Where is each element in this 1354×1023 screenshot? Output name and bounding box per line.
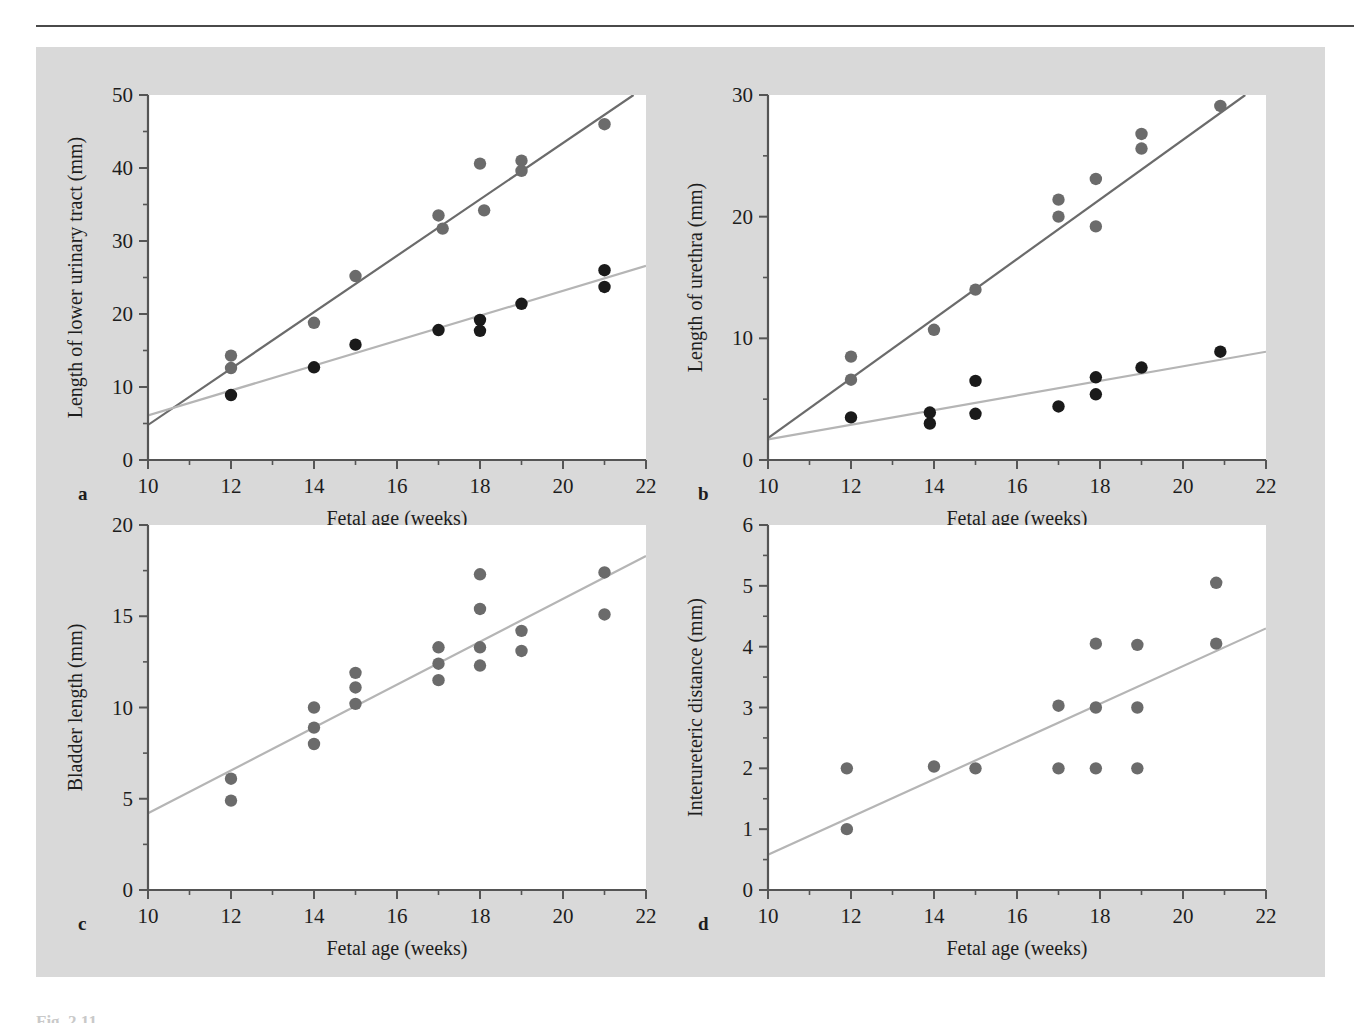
data-point-b-1-1 xyxy=(924,406,936,418)
y-axis-label-d: Interureteric distance (mm) xyxy=(684,598,707,817)
x-tick-label-c-2: 14 xyxy=(304,904,326,928)
data-point-d-0-3 xyxy=(969,762,981,774)
data-point-c-0-17 xyxy=(598,566,610,578)
data-point-d-0-12 xyxy=(1210,577,1222,589)
panel-c: 1012141618202205101520Fetal age (weeks)B… xyxy=(64,513,657,960)
x-tick-label-c-4: 18 xyxy=(470,904,491,928)
x-tick-label-a-2: 14 xyxy=(304,474,326,498)
y-tick-label-a-4: 40 xyxy=(112,156,133,180)
x-tick-label-d-2: 14 xyxy=(924,904,946,928)
x-tick-label-a-5: 20 xyxy=(553,474,574,498)
y-tick-label-b-2: 20 xyxy=(732,205,753,229)
x-tick-label-c-0: 10 xyxy=(138,904,159,928)
y-tick-label-c-4: 20 xyxy=(112,513,133,537)
x-tick-label-b-5: 20 xyxy=(1173,474,1194,498)
y-tick-label-c-3: 15 xyxy=(112,604,133,628)
data-point-b-1-8 xyxy=(1135,361,1147,373)
data-point-d-0-9 xyxy=(1131,639,1143,651)
y-tick-label-c-0: 0 xyxy=(123,878,134,902)
y-tick-label-b-1: 10 xyxy=(732,326,753,350)
x-tick-label-d-0: 10 xyxy=(758,904,779,928)
data-point-b-1-0 xyxy=(845,411,857,423)
x-tick-label-d-3: 16 xyxy=(1007,904,1028,928)
data-point-d-0-0 xyxy=(841,762,853,774)
data-point-b-0-7 xyxy=(1090,220,1102,232)
data-point-b-1-5 xyxy=(1052,400,1064,412)
data-point-a-0-9 xyxy=(515,165,527,177)
plot-area-c xyxy=(148,525,646,890)
data-point-b-0-5 xyxy=(1052,210,1064,222)
x-axis-label-d: Fetal age (weeks) xyxy=(946,937,1087,960)
data-point-d-0-13 xyxy=(1210,637,1222,649)
x-tick-label-c-1: 12 xyxy=(221,904,242,928)
data-point-d-0-4 xyxy=(1052,699,1064,711)
data-point-d-0-10 xyxy=(1131,701,1143,713)
data-point-c-0-7 xyxy=(349,698,361,710)
data-point-c-0-13 xyxy=(474,641,486,653)
figure-root: Fig. 2.11 1012141618202201020304050Fetal… xyxy=(0,0,1354,1023)
panel-letter-b: b xyxy=(698,483,709,504)
data-point-b-1-6 xyxy=(1090,371,1102,383)
data-point-c-0-0 xyxy=(225,772,237,784)
data-point-a-0-0 xyxy=(225,349,237,361)
y-tick-label-a-0: 0 xyxy=(123,448,134,472)
data-point-c-0-6 xyxy=(349,681,361,693)
x-tick-label-a-4: 18 xyxy=(470,474,491,498)
plot-area-b xyxy=(768,95,1266,460)
y-tick-label-d-0: 0 xyxy=(743,878,754,902)
x-tick-label-b-0: 10 xyxy=(758,474,779,498)
data-point-d-0-2 xyxy=(928,760,940,772)
x-tick-label-d-4: 18 xyxy=(1090,904,1111,928)
x-tick-label-b-4: 18 xyxy=(1090,474,1111,498)
data-point-d-0-1 xyxy=(841,823,853,835)
panel-letter-a: a xyxy=(78,483,88,504)
data-point-a-0-1 xyxy=(225,362,237,374)
panel-letter-d: d xyxy=(698,913,709,934)
data-point-a-0-6 xyxy=(474,157,486,169)
y-tick-label-d-5: 5 xyxy=(743,574,754,598)
data-point-d-0-7 xyxy=(1090,701,1102,713)
data-point-d-0-6 xyxy=(1090,637,1102,649)
x-tick-label-a-3: 16 xyxy=(387,474,408,498)
panel-a: 1012141618202201020304050Fetal age (week… xyxy=(64,83,657,530)
data-point-d-0-5 xyxy=(1052,762,1064,774)
data-point-b-1-2 xyxy=(924,417,936,429)
data-point-b-1-9 xyxy=(1214,346,1226,358)
x-tick-label-b-2: 14 xyxy=(924,474,946,498)
y-tick-label-b-3: 30 xyxy=(732,83,753,107)
data-point-b-0-1 xyxy=(845,374,857,386)
data-point-c-0-4 xyxy=(308,738,320,750)
data-point-c-0-16 xyxy=(515,645,527,657)
data-point-b-1-3 xyxy=(969,375,981,387)
y-axis-label-c: Bladder length (mm) xyxy=(64,624,87,792)
data-point-c-0-9 xyxy=(432,658,444,670)
data-point-d-0-8 xyxy=(1090,762,1102,774)
plot-area-d xyxy=(768,525,1266,890)
data-point-c-0-8 xyxy=(432,641,444,653)
data-point-b-0-4 xyxy=(1052,193,1064,205)
data-point-b-0-0 xyxy=(845,350,857,362)
data-point-c-0-12 xyxy=(474,603,486,615)
data-point-a-1-8 xyxy=(598,281,610,293)
data-point-c-0-14 xyxy=(474,659,486,671)
data-point-c-0-1 xyxy=(225,794,237,806)
data-point-c-0-2 xyxy=(308,701,320,713)
y-tick-label-a-5: 50 xyxy=(112,83,133,107)
y-tick-label-a-2: 20 xyxy=(112,302,133,326)
x-tick-label-d-6: 22 xyxy=(1256,904,1277,928)
y-tick-label-a-3: 30 xyxy=(112,229,133,253)
data-point-c-0-15 xyxy=(515,625,527,637)
panel-d: 101214161820220123456Fetal age (weeks)In… xyxy=(684,513,1277,960)
data-point-b-0-3 xyxy=(969,283,981,295)
data-point-d-0-11 xyxy=(1131,762,1143,774)
y-axis-label-a: Length of lower urinary tract (mm) xyxy=(64,137,87,419)
y-tick-label-d-4: 4 xyxy=(743,635,754,659)
data-point-a-1-4 xyxy=(474,314,486,326)
y-tick-label-b-0: 0 xyxy=(743,448,754,472)
data-point-a-1-0 xyxy=(225,389,237,401)
data-point-b-0-9 xyxy=(1135,142,1147,154)
data-point-b-1-4 xyxy=(969,408,981,420)
plot-area-a xyxy=(148,95,646,460)
x-tick-label-c-3: 16 xyxy=(387,904,408,928)
y-axis-label-b: Length of urethra (mm) xyxy=(684,183,707,372)
